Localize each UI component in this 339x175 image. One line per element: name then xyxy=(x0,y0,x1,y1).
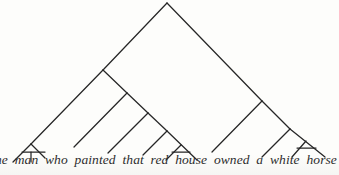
tree-edge-rel-clause-right xyxy=(127,93,148,113)
sentence-word: owned xyxy=(214,151,250,168)
sentence-word: red xyxy=(151,151,169,168)
sentence-word: man xyxy=(15,151,39,168)
syntax-tree-graphic xyxy=(0,0,339,175)
sentence-word: house xyxy=(175,151,207,168)
tree-edge-root-right-spine xyxy=(167,3,262,101)
sentence-word: white xyxy=(270,151,300,168)
tree-edge-group xyxy=(13,3,325,162)
tree-edge-rel-clause-left xyxy=(74,93,127,147)
sentence-word: that xyxy=(122,151,143,168)
syntax-tree-figure: hemanwhopaintedthatredhouseownedawhiteho… xyxy=(0,0,339,175)
sentence-word: a xyxy=(256,151,263,168)
tree-edge-np-subj-left xyxy=(31,70,103,144)
tree-edge-root-left-spine xyxy=(103,3,167,70)
sentence-layer: hemanwhopaintedthatredhouseownedawhiteho… xyxy=(0,151,339,175)
sentence-word: he xyxy=(0,151,8,168)
sentence-word: painted xyxy=(75,151,116,168)
tree-edge-np-subj-right xyxy=(103,70,127,93)
sentence-word: who xyxy=(45,151,68,168)
tree-edge-vp-main-left xyxy=(212,101,262,152)
tree-edge-vp-rel-right xyxy=(148,113,167,131)
tree-edge-vp-rel-left xyxy=(108,113,148,153)
sentence-word: horse xyxy=(306,151,337,168)
sentence-line: hemanwhopaintedthatredhouseownedawhiteho… xyxy=(0,151,339,168)
tree-edge-vp-main-right xyxy=(262,101,290,129)
